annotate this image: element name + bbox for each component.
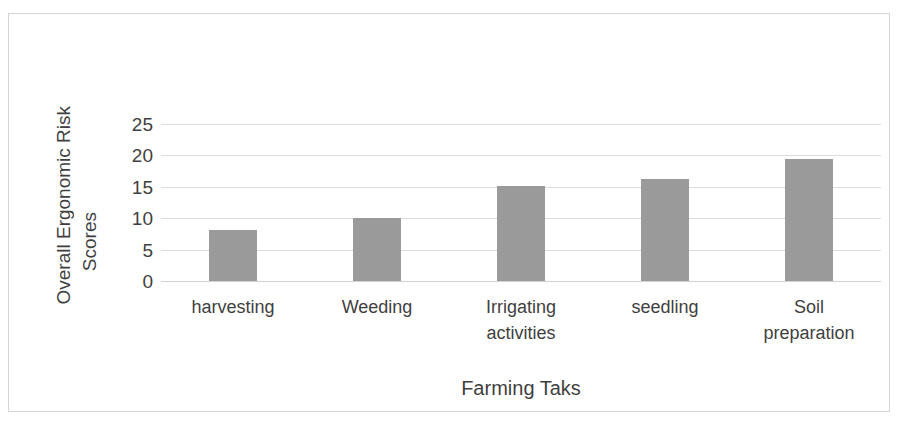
bar[interactable] [641, 179, 689, 281]
category-label-line: Soil [737, 294, 881, 320]
y-tick-label: 15 [105, 177, 153, 196]
y-tick-label: 5 [105, 240, 153, 259]
y-axis-tick-labels: 0510152025 [105, 112, 153, 284]
category-label-line: Weeding [305, 294, 449, 320]
y-tick-label: 20 [105, 146, 153, 165]
bar-slot [593, 124, 737, 281]
category-label: seedling [593, 294, 737, 320]
bar[interactable] [353, 218, 401, 281]
chart-frame: Overall Ergonomic Risk Scores 0510152025… [8, 13, 890, 412]
bar[interactable] [497, 186, 545, 281]
chart-screenshot: Overall Ergonomic Risk Scores 0510152025… [0, 0, 899, 433]
bar[interactable] [209, 230, 257, 281]
category-label-line: preparation [737, 320, 881, 346]
category-label-line: harvesting [161, 294, 305, 320]
y-tick-label: 25 [105, 115, 153, 134]
y-axis-title-line-1: Overall Ergonomic Risk [53, 106, 75, 305]
category-label: Weeding [305, 294, 449, 320]
x-axis-title: Farming Taks [161, 377, 881, 400]
category-label-line: Irrigating [449, 294, 593, 320]
bar-slot [449, 124, 593, 281]
y-axis-title: Overall Ergonomic Risk Scores [27, 94, 91, 309]
bars-layer [161, 124, 881, 281]
bar[interactable] [785, 159, 833, 281]
category-label: harvesting [161, 294, 305, 320]
category-label: Soilpreparation [737, 294, 881, 346]
y-tick-label: 10 [105, 209, 153, 228]
category-label-line: activities [449, 320, 593, 346]
bar-slot [737, 124, 881, 281]
x-axis-baseline [161, 281, 881, 282]
category-label: Irrigatingactivities [449, 294, 593, 346]
category-label-line: seedling [593, 294, 737, 320]
y-tick-label: 0 [105, 272, 153, 291]
y-axis-title-line-2: Scores [79, 212, 101, 271]
bar-slot [305, 124, 449, 281]
x-axis-category-labels: harvestingWeedingIrrigatingactivitiessee… [161, 294, 881, 350]
bar-slot [161, 124, 305, 281]
